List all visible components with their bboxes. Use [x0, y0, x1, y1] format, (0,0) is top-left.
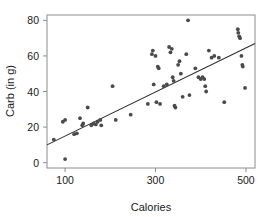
data-point [179, 72, 183, 76]
data-point [207, 49, 211, 53]
data-point [203, 84, 207, 88]
data-point [151, 49, 155, 53]
regression-line [47, 43, 255, 144]
x-tick-label: 100 [56, 174, 74, 186]
scatter-plot-figure: 020406080100300500 Calories Carb (in g) [0, 0, 273, 217]
data-point [236, 31, 240, 35]
data-point [172, 79, 176, 83]
data-point [178, 59, 182, 63]
data-point [146, 102, 150, 106]
data-point [114, 118, 118, 122]
trend-line [47, 43, 255, 144]
data-point [98, 118, 102, 122]
data-point [212, 54, 216, 58]
data-point [52, 138, 56, 142]
data-point [99, 123, 103, 127]
data-point [81, 122, 85, 126]
data-point [170, 47, 174, 51]
x-axis-label: Calories [131, 201, 172, 213]
plot-frame [47, 15, 255, 168]
data-point [75, 131, 79, 135]
y-tick-label: 40 [27, 86, 39, 98]
y-tick-label: 60 [27, 50, 39, 62]
data-point [111, 84, 115, 88]
axis-tick-labels: 020406080100300500 [27, 14, 255, 186]
data-point [184, 52, 188, 56]
data-point [176, 63, 180, 67]
data-point [204, 90, 208, 94]
data-point [86, 106, 90, 110]
data-point [236, 27, 240, 31]
data-point [238, 36, 242, 40]
data-point [154, 54, 158, 58]
data-point [186, 18, 190, 22]
y-tick-label: 20 [27, 121, 39, 133]
y-axis-label: Carb (in g) [4, 65, 16, 117]
data-point [152, 82, 156, 86]
data-point [169, 50, 173, 54]
data-point [63, 118, 67, 122]
data-point [171, 75, 175, 79]
data-point [241, 65, 245, 69]
chart-canvas: 020406080100300500 Calories Carb (in g) [0, 0, 273, 217]
y-tick-label: 80 [27, 14, 39, 26]
data-point [155, 100, 159, 104]
data-point [202, 77, 206, 81]
data-point [150, 52, 154, 56]
x-tick-label: 300 [147, 174, 165, 186]
data-point [181, 95, 185, 99]
data-point [158, 102, 162, 106]
data-point [217, 56, 221, 60]
y-tick-label: 0 [33, 157, 39, 169]
data-point [240, 54, 244, 58]
axis-tick-marks [43, 20, 246, 172]
data-point [63, 157, 67, 161]
plot-border [47, 15, 255, 168]
data-points [52, 18, 247, 161]
data-point [222, 100, 226, 104]
x-tick-label: 500 [237, 174, 255, 186]
data-point [78, 116, 82, 120]
data-point [157, 66, 161, 70]
data-point [174, 106, 178, 110]
data-point [165, 82, 169, 86]
data-point [188, 93, 192, 97]
data-point [129, 113, 133, 117]
data-point [193, 66, 197, 70]
data-point [243, 86, 247, 90]
